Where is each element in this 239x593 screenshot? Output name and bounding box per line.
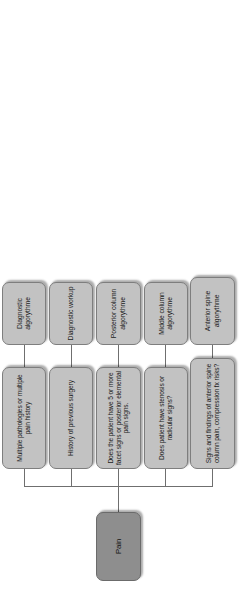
node-condition-anterior-column-label: Signs and findings of anterior spine col… [205, 362, 221, 465]
connector-condition-2-to-outcome-2 [71, 345, 72, 367]
node-condition-stenosis-radicular-label: Does patient have stenosis or radicular … [158, 371, 174, 465]
connector-spine-to-condition-4 [165, 469, 166, 487]
node-condition-stenosis-radicular[interactable]: Does patient have stenosis or radicular … [144, 367, 188, 469]
connector-root-stub [118, 487, 119, 512]
flowchart-canvas: Pain Multiple pathologies or multiple pa… [0, 0, 237, 593]
node-condition-previous-surgery[interactable]: History of previous surgery [49, 367, 93, 469]
node-condition-anterior-column[interactable]: Signs and findings of anterior spine col… [190, 358, 235, 469]
connector-spine-to-condition-5 [212, 469, 213, 487]
node-root-pain[interactable]: Pain [96, 512, 141, 581]
node-condition-multiple-pathologies-label: Multiple pathologies or multiple pain hi… [16, 371, 32, 465]
node-root-pain-label: Pain [114, 516, 123, 577]
connector-condition-3-to-outcome-3 [118, 345, 119, 367]
connector-condition-1-to-outcome-1 [24, 345, 25, 367]
node-outcome-anterior-spine-algorythme-label: Anterior spine algorythme [204, 281, 220, 341]
node-condition-facet-signs[interactable]: Does the patient have 5 or more facet si… [96, 367, 141, 469]
node-outcome-diagnostic-algorythme[interactable]: Diagnostic algorythme [2, 282, 46, 345]
node-outcome-middle-column-algorythme-label: Middle column algorythme [158, 286, 174, 341]
node-outcome-posterior-column-algorythme[interactable]: Posterior column algorythme [96, 282, 141, 345]
connector-spine-to-condition-1 [24, 469, 25, 487]
connector-spine-to-condition-3 [118, 469, 119, 487]
connector-condition-4-to-outcome-4 [165, 345, 166, 367]
node-outcome-diagnostic-algorythme-label: Diagnostic algorythme [16, 286, 32, 341]
node-outcome-diagnostic-workup-label: Diagnostic workup [67, 286, 75, 341]
node-outcome-diagnostic-workup[interactable]: Diagnostic workup [49, 282, 93, 345]
node-outcome-anterior-spine-algorythme[interactable]: Anterior spine algorythme [190, 277, 235, 345]
connector-spine-to-condition-2 [71, 469, 72, 487]
node-outcome-posterior-column-algorythme-label: Posterior column algorythme [110, 286, 126, 341]
node-outcome-middle-column-algorythme[interactable]: Middle column algorythme [144, 282, 188, 345]
node-condition-multiple-pathologies[interactable]: Multiple pathologies or multiple pain hi… [2, 367, 46, 469]
node-condition-previous-surgery-label: History of previous surgery [67, 371, 75, 465]
node-condition-facet-signs-label: Does the patient have 5 or more facet si… [107, 371, 130, 465]
